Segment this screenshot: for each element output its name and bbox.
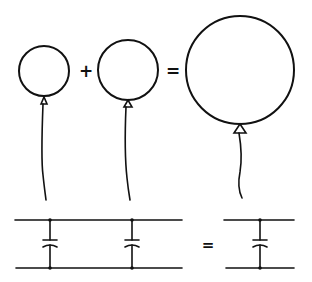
- balloon-capacitor-diagram: + = =: [0, 0, 312, 282]
- balloon-knot-icon: [234, 124, 246, 133]
- small-balloon-2: [98, 40, 158, 200]
- balloon-body: [19, 46, 69, 96]
- parallel-capacitor-circuit: [15, 218, 182, 270]
- balloon-string: [239, 133, 242, 198]
- balloon-body: [98, 40, 158, 100]
- plus-symbol: +: [79, 61, 93, 81]
- balloon-knot-icon: [124, 100, 132, 107]
- balloon-string: [125, 107, 130, 200]
- capacitor-2: [125, 218, 139, 270]
- small-balloon-1: [19, 46, 69, 200]
- capacitor-1: [43, 218, 57, 270]
- equals-symbol-top: =: [166, 61, 180, 81]
- balloon-body: [186, 16, 294, 124]
- large-balloon: [186, 16, 294, 198]
- balloon-knot-icon: [41, 97, 47, 104]
- balloon-string: [42, 104, 46, 200]
- equivalent-capacitor-circuit: [224, 218, 294, 270]
- equals-symbol-bottom: =: [202, 236, 215, 254]
